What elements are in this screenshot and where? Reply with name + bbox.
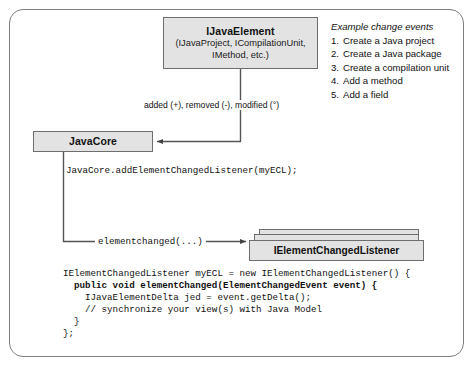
code-line-2: public void elementChanged(ElementChange… xyxy=(63,280,410,292)
node-ijavaelement-subtitle-line2: IMethod, etc.) xyxy=(212,50,269,62)
node-ijavaelement-title: IJavaElement xyxy=(206,25,274,38)
list-item-number: 4. xyxy=(331,74,343,87)
list-item-label: Create a Java package xyxy=(343,47,442,60)
listener-stack-layer-front: IElementChangedListener xyxy=(249,240,424,261)
list-item-number: 5. xyxy=(331,88,343,101)
example-change-events: Example change events 1. Create a Java p… xyxy=(331,20,463,101)
code-line-3: IJavaElementDelta jed = event.getDelta()… xyxy=(63,292,410,304)
list-item-label: Add a method xyxy=(343,74,403,87)
list-item-label: Create a Java project xyxy=(343,34,434,47)
edge-label-delta: added (+), removed (-), modified (°) xyxy=(141,100,282,110)
list-item: 2. Create a Java package xyxy=(331,47,463,60)
example-change-events-list: 1. Create a Java project 2. Create a Jav… xyxy=(331,34,463,101)
node-ijavaelement-subtitle-line1: (IJavaProject, ICompilationUnit, xyxy=(175,38,305,50)
diagram-canvas: IJavaElement (IJavaProject, ICompilation… xyxy=(0,0,474,367)
list-item-number: 2. xyxy=(331,47,343,60)
code-line-4: // synchronize your view(s) with Java Mo… xyxy=(63,304,410,316)
code-line-5: } xyxy=(63,316,410,328)
list-item: 4. Add a method xyxy=(331,74,463,87)
list-item-label: Add a field xyxy=(343,88,388,101)
code-line-6: }; xyxy=(63,328,410,340)
list-item: 3. Create a compilation unit xyxy=(331,61,463,74)
list-item-number: 1. xyxy=(331,34,343,47)
node-ijavaelement[interactable]: IJavaElement (IJavaProject, ICompilation… xyxy=(163,17,318,69)
edge-label-elementchanged: elementchanged(...) xyxy=(95,236,206,248)
list-item: 1. Create a Java project xyxy=(331,34,463,47)
node-ielementchangedlistener[interactable]: IElementChangedListener xyxy=(249,229,434,265)
node-ielementchangedlistener-title: IElementChangedListener xyxy=(274,245,400,256)
code-line-1: IElementChangedListener myECL = new IEle… xyxy=(63,268,410,280)
example-change-events-heading: Example change events xyxy=(331,20,463,33)
code-add-element-changed-listener: JavaCore.addElementChangedListener(myECL… xyxy=(66,165,298,177)
node-javacore[interactable]: JavaCore xyxy=(33,131,153,152)
code-snippet: IElementChangedListener myECL = new IEle… xyxy=(63,268,410,339)
list-item-number: 3. xyxy=(331,61,343,74)
node-javacore-title: JavaCore xyxy=(69,135,117,148)
list-item-label: Create a compilation unit xyxy=(343,61,449,74)
list-item: 5. Add a field xyxy=(331,88,463,101)
